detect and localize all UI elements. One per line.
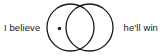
right-phrase-label: he'll win [124, 21, 158, 35]
left-phrase-label: I believe [4, 21, 40, 35]
venn-diagram [45, 0, 117, 56]
venn-diagram-svg [45, 0, 117, 56]
venn-left-circle-dot-icon [58, 27, 61, 30]
venn-left-circle [47, 4, 94, 51]
venn-phrase-illustration: I believe he'll win [0, 0, 162, 56]
venn-right-circle [66, 4, 113, 51]
